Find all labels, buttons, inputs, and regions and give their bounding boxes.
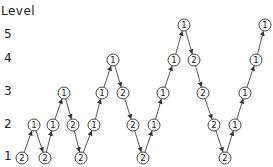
svg-text:2: 2 <box>200 88 205 98</box>
edge-arrow <box>205 99 212 119</box>
node-1: 1 <box>168 54 180 66</box>
node-1: 1 <box>250 54 262 66</box>
node-1: 1 <box>148 119 160 131</box>
svg-text:1: 1 <box>91 120 96 130</box>
svg-text:1: 1 <box>110 55 115 65</box>
svg-text:2: 2 <box>19 153 24 163</box>
node-1: 1 <box>47 119 59 131</box>
svg-text:1: 1 <box>99 88 104 98</box>
edge-arrow <box>196 66 202 87</box>
svg-text:1: 1 <box>262 20 267 30</box>
node-1: 1 <box>96 87 108 99</box>
edge-arrow <box>46 131 51 152</box>
edge-arrow <box>104 66 111 87</box>
node-1: 1 <box>107 54 119 66</box>
svg-text:2: 2 <box>78 153 83 163</box>
svg-text:1: 1 <box>242 88 247 98</box>
node-2: 2 <box>39 152 51 164</box>
svg-text:2: 2 <box>120 88 125 98</box>
node-1: 1 <box>239 87 251 99</box>
node-2: 2 <box>67 119 79 131</box>
svg-text:2: 2 <box>211 120 216 130</box>
edge-arrow <box>247 66 254 87</box>
svg-text:2: 2 <box>130 120 135 130</box>
svg-text:2: 2 <box>70 120 75 130</box>
node-1: 1 <box>157 87 169 99</box>
edge-arrow <box>83 131 91 152</box>
svg-text:1: 1 <box>253 55 258 65</box>
edge-arrow <box>237 99 243 119</box>
svg-text:2: 2 <box>42 153 47 163</box>
svg-text:1: 1 <box>181 20 186 30</box>
node-2: 2 <box>219 152 231 164</box>
edge-arrow <box>176 31 183 54</box>
svg-text:2: 2 <box>140 153 145 163</box>
edge-arrow <box>24 131 32 152</box>
node-1: 1 <box>58 87 70 99</box>
edge-arrow <box>95 99 100 119</box>
node-1: 1 <box>178 19 190 31</box>
edge-arrow <box>55 99 62 119</box>
level-path-diagram: 2121122111222111122221111 <box>0 0 273 167</box>
node-2: 2 <box>188 54 200 66</box>
node-2: 2 <box>117 87 129 99</box>
svg-text:1: 1 <box>31 120 36 130</box>
edge-arrow <box>156 99 162 119</box>
svg-text:1: 1 <box>61 88 66 98</box>
node-1: 1 <box>229 119 241 131</box>
node-2: 2 <box>208 119 220 131</box>
svg-text:1: 1 <box>160 88 165 98</box>
edge-arrow <box>216 131 223 152</box>
svg-text:2: 2 <box>222 153 227 163</box>
edge-arrow <box>66 99 72 119</box>
node-1: 1 <box>259 19 271 31</box>
node-2: 2 <box>127 119 139 131</box>
edge-arrow <box>36 131 43 152</box>
edge-arrow <box>257 31 263 54</box>
node-1: 1 <box>88 119 100 131</box>
svg-text:1: 1 <box>171 55 176 65</box>
edge-arrow <box>115 66 121 87</box>
svg-text:1: 1 <box>50 120 55 130</box>
svg-text:2: 2 <box>191 55 196 65</box>
nodes: 2121122111222111122221111 <box>16 19 271 164</box>
node-2: 2 <box>137 152 149 164</box>
edge-arrow <box>165 66 172 87</box>
node-2: 2 <box>75 152 87 164</box>
edge-arrow <box>145 131 152 152</box>
edge-arrow <box>186 31 193 54</box>
svg-text:1: 1 <box>232 120 237 130</box>
edge-arrow <box>135 131 141 152</box>
edge-arrow <box>227 131 233 152</box>
node-1: 1 <box>28 119 40 131</box>
edge-arrow <box>125 99 131 119</box>
node-2: 2 <box>197 87 209 99</box>
node-2: 2 <box>16 152 28 164</box>
edge-arrow <box>74 131 79 152</box>
svg-text:1: 1 <box>151 120 156 130</box>
